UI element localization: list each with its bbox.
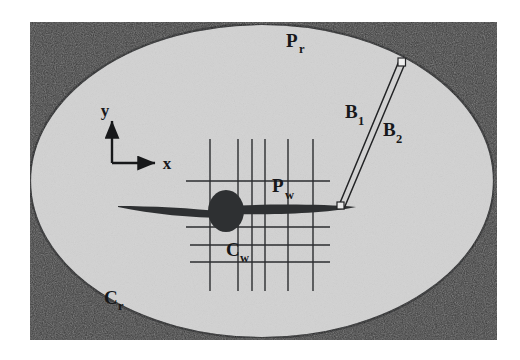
label-p-r-base: P bbox=[286, 30, 298, 51]
label-b-1-base: B bbox=[345, 101, 358, 122]
axis-x-label: x bbox=[163, 154, 172, 173]
boom-root-marker bbox=[337, 202, 344, 209]
label-p-w-sub: w bbox=[285, 188, 294, 202]
label-p-r-sub: r bbox=[299, 42, 305, 56]
figure-root: y x P r C r P w C w B 1 B 2 bbox=[0, 0, 520, 360]
label-p-w-base: P bbox=[272, 175, 284, 196]
label-b-2-sub: 2 bbox=[396, 132, 402, 146]
fuselage-body bbox=[208, 190, 244, 232]
label-b-2-base: B bbox=[383, 119, 396, 140]
domain-diagram: y x P r C r P w C w B 1 B 2 bbox=[0, 0, 520, 360]
label-c-w-base: C bbox=[226, 239, 240, 260]
label-c-r-base: C bbox=[104, 287, 118, 308]
boom-tip-marker bbox=[398, 58, 406, 66]
label-c-w-sub: w bbox=[240, 251, 249, 265]
label-c-r-sub: r bbox=[118, 299, 124, 313]
label-b-1-sub: 1 bbox=[358, 114, 364, 128]
axis-y-label: y bbox=[101, 101, 110, 120]
